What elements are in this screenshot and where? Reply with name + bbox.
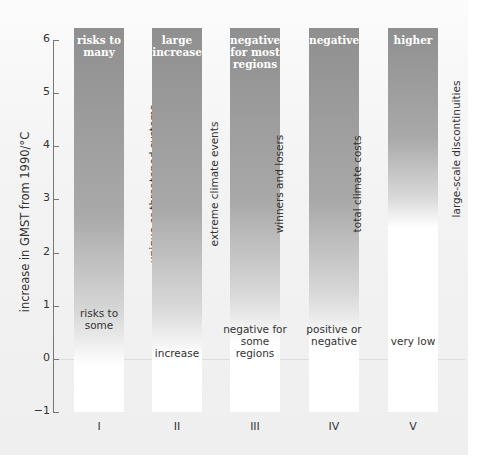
risk-bar-III: negative for most regionswinners and los… xyxy=(230,28,280,412)
bar-high-risk-label: higher xyxy=(388,28,438,46)
risk-bar-II: large increaseextreme climate eventsincr… xyxy=(152,28,202,412)
y-tick-label: 2 xyxy=(10,245,50,258)
bar-high-risk-label: negative for most regions xyxy=(230,28,280,70)
y-tick xyxy=(53,412,59,413)
y-tick xyxy=(53,359,59,360)
risk-bar-V: higherlarge-scale discontinuitiesvery lo… xyxy=(388,28,438,412)
y-tick-label: 4 xyxy=(10,138,50,151)
y-tick xyxy=(53,146,59,147)
y-axis xyxy=(53,40,54,413)
y-tick-label: −1 xyxy=(10,404,50,417)
bar-reason-label: large-scale discontinuities xyxy=(388,143,438,155)
bar-high-risk-label: negative xyxy=(309,28,359,46)
bar-reason-label: unique or threatened systems xyxy=(74,178,124,190)
bar-high-risk-label: large increase xyxy=(152,28,202,58)
category-label: V xyxy=(388,420,438,433)
y-tick xyxy=(53,40,59,41)
y-tick-label: 3 xyxy=(10,191,50,204)
bar-low-risk-label: risks to some xyxy=(66,307,132,331)
risk-bar-IV: negativetotal climate costspositive or n… xyxy=(309,28,359,412)
y-tick xyxy=(53,199,59,200)
bar-low-risk-label: increase xyxy=(144,347,210,359)
y-tick-label: 5 xyxy=(10,85,50,98)
bar-low-risk-label: positive or negative xyxy=(301,323,367,347)
bar-reason-label: total climate costs xyxy=(309,178,359,190)
y-tick xyxy=(53,93,59,94)
y-tick xyxy=(53,306,59,307)
bar-reason-label: extreme climate events xyxy=(152,178,202,190)
category-label: III xyxy=(230,420,280,433)
risk-bar-I: risks to manyunique or threatened system… xyxy=(74,28,124,412)
bar-low-risk-label: negative for some regions xyxy=(222,323,288,359)
category-label: II xyxy=(152,420,202,433)
y-tick-label: 0 xyxy=(10,351,50,364)
category-label: I xyxy=(74,420,124,433)
bar-low-risk-label: very low xyxy=(380,335,446,347)
y-tick-label: 6 xyxy=(10,32,50,45)
y-tick xyxy=(53,253,59,254)
bar-high-risk-label: risks to many xyxy=(74,28,124,58)
bar-reason-label: winners and losers xyxy=(230,178,280,190)
y-tick-label: 1 xyxy=(10,298,50,311)
category-label: IV xyxy=(309,420,359,433)
